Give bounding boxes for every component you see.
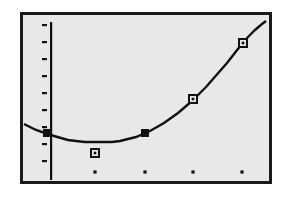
data-point-open-2 [238, 38, 248, 48]
open-square-marker-group [90, 38, 248, 158]
x-axis-tick-dot-2 [191, 170, 194, 173]
y-axis-tick-1 [42, 41, 47, 43]
y-axis-tick-0 [42, 24, 47, 26]
x-axis-tick-dot-3 [240, 170, 243, 173]
x-axis-tick-dot-1 [143, 170, 146, 173]
data-point-filled-0 [43, 129, 51, 137]
regression-curve-group [24, 21, 266, 142]
y-axis-tick-3 [42, 75, 47, 77]
y-axis-tick-2 [42, 58, 47, 60]
data-point-open-1 [188, 94, 198, 104]
calculator-screen-frame [20, 12, 272, 184]
y-axis-tick-4 [42, 92, 47, 94]
scatter-plot-with-regression-curve [23, 15, 269, 181]
y-axis-line [50, 22, 52, 180]
open-marker-center-pip [242, 42, 245, 45]
calculator-screenshot [0, 0, 290, 198]
filled-square-marker-group [43, 129, 149, 137]
y-axis-tick-group [42, 24, 47, 162]
open-marker-center-pip [192, 98, 195, 101]
y-axis-tick-5 [42, 109, 47, 111]
y-axis-tick-7 [42, 143, 47, 145]
data-point-filled-1 [141, 129, 149, 137]
y-axis-tick-6 [42, 126, 47, 128]
plot-area [23, 15, 269, 181]
open-marker-center-pip [94, 152, 97, 155]
y-axis [50, 22, 52, 180]
data-point-open-0 [90, 148, 100, 158]
x-axis-tick-dot-0 [93, 170, 96, 173]
x-axis-tick-dot-group [93, 170, 243, 173]
y-axis-tick-8 [42, 160, 47, 162]
regression-curve [24, 21, 266, 142]
